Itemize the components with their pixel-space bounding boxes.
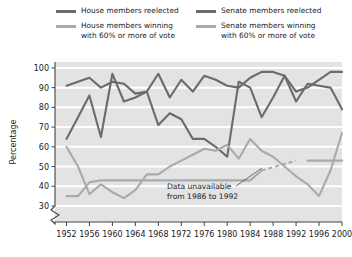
legend-label-house-reelected: House members reelected (81, 6, 179, 16)
y-tick-label: 60 (39, 143, 49, 152)
y-tick-label: 70 (39, 123, 49, 132)
legend-entry-senate-reelected: Senate members reelected (196, 6, 321, 16)
annotation-line-1: Data unavailable (167, 182, 232, 191)
x-tick-label: 1980 (217, 230, 237, 239)
legend-swatch-house-reelected (56, 10, 76, 13)
y-axis-label: Percentage (9, 119, 18, 164)
x-axis-ticks: 1952195619601964196819721976198019841988… (56, 222, 352, 239)
legend-swatch-senate-reelected (196, 10, 216, 13)
legend-label-house-60pct: House members winning with 60% or more o… (81, 21, 175, 41)
x-tick-label: 1976 (194, 230, 214, 239)
x-tick-label: 1960 (102, 230, 122, 239)
x-tick-label: 1992 (286, 230, 306, 239)
x-tick-label: 1952 (56, 230, 76, 239)
legend-column-left: House members reelected House members wi… (56, 6, 179, 46)
y-tick-label: 30 (39, 202, 49, 211)
y-tick-label: 100 (34, 64, 49, 73)
y-tick-label: 40 (39, 182, 49, 191)
legend-swatch-house-60pct (56, 25, 76, 28)
legend-entry-house-60pct: House members winning with 60% or more o… (56, 21, 179, 41)
x-tick-label: 2000 (332, 230, 352, 239)
legend-label-senate-60pct: Senate members winning with 60% or more … (221, 21, 316, 41)
y-tick-label: 80 (39, 103, 49, 112)
x-tick-label: 1956 (79, 230, 99, 239)
x-tick-label: 1988 (263, 230, 283, 239)
x-tick-label: 1996 (309, 230, 329, 239)
annotation-line-2: from 1986 to 1992 (167, 192, 238, 201)
y-tick-label: 50 (39, 163, 49, 172)
chart-legend: House members reelected House members wi… (0, 0, 352, 52)
legend-swatch-senate-60pct (196, 25, 216, 28)
y-axis-ticks: 30405060708090100 (34, 64, 55, 211)
chart-figure: House members reelected House members wi… (0, 0, 352, 257)
x-tick-label: 1964 (125, 230, 145, 239)
legend-column-right: Senate members reelected Senate members … (196, 6, 321, 46)
x-tick-label: 1972 (171, 230, 191, 239)
legend-entry-senate-60pct: Senate members winning with 60% or more … (196, 21, 321, 41)
legend-label-senate-reelected: Senate members reelected (221, 6, 321, 16)
x-tick-label: 1968 (148, 230, 168, 239)
y-tick-label: 90 (39, 84, 49, 93)
legend-entry-house-reelected: House members reelected (56, 6, 179, 16)
x-tick-label: 1984 (240, 230, 260, 239)
